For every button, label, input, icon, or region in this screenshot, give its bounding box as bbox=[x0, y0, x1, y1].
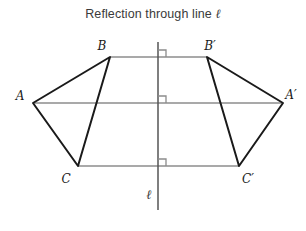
figure-title-line-symbol: ℓ bbox=[215, 6, 220, 21]
figure-title: Reflection through line ℓ bbox=[0, 6, 306, 22]
pre-image-triangle bbox=[33, 57, 110, 166]
right-angle-mark-middle bbox=[158, 96, 166, 103]
point-label-C: C bbox=[61, 172, 70, 186]
reflection-diagram-figure: Reflection through line ℓ A B C A′ B′ C′… bbox=[0, 0, 306, 231]
point-label-A-prime: A′ bbox=[284, 88, 297, 102]
point-label-B-prime: B′ bbox=[203, 39, 216, 53]
point-label-B: B bbox=[97, 39, 107, 53]
mirror-line-label: ℓ bbox=[146, 187, 152, 202]
image-triangle bbox=[207, 57, 283, 166]
right-angle-mark-bottom bbox=[158, 159, 166, 166]
right-angle-mark-top bbox=[158, 50, 166, 57]
point-label-C-prime: C′ bbox=[242, 172, 254, 186]
geometry-canvas: A B C A′ B′ C′ ℓ bbox=[0, 0, 306, 231]
figure-title-text: Reflection through line bbox=[85, 7, 215, 21]
point-label-A: A bbox=[15, 89, 25, 103]
right-angle-mark-group bbox=[158, 50, 166, 166]
